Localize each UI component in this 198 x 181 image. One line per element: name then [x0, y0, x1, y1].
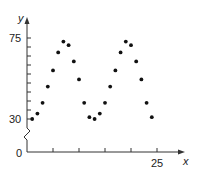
data-point — [67, 43, 71, 47]
data-point — [72, 60, 76, 64]
scatter-chart: y x 75 30 0 25 — [0, 0, 198, 181]
data-point — [134, 60, 138, 64]
data-point — [119, 51, 123, 55]
data-point — [140, 78, 144, 82]
data-point — [145, 101, 149, 105]
data-points — [30, 40, 153, 121]
data-point — [98, 112, 102, 116]
data-point — [103, 101, 107, 105]
data-point — [41, 101, 45, 105]
data-point — [56, 51, 60, 55]
origin-label: 0 — [16, 147, 22, 159]
y-tick-label-75: 75 — [9, 32, 21, 44]
data-point — [77, 78, 81, 82]
data-point — [62, 40, 66, 44]
x-tick-label-25: 25 — [151, 157, 163, 169]
y-ticks — [27, 38, 31, 119]
data-point — [30, 117, 34, 121]
data-point — [108, 85, 112, 89]
data-point — [93, 117, 97, 121]
axis-break-icon — [24, 128, 30, 140]
y-axis-label: y — [17, 12, 25, 24]
x-axis-arrow — [178, 150, 185, 155]
data-point — [88, 115, 92, 119]
data-point — [124, 40, 128, 44]
y-axis-arrow — [25, 17, 30, 24]
y-tick-label-30: 30 — [9, 113, 21, 125]
data-point — [150, 115, 154, 119]
data-point — [114, 69, 118, 73]
data-point — [46, 85, 50, 89]
x-ticks — [53, 148, 157, 152]
x-axis-label: x — [182, 155, 189, 167]
data-point — [82, 101, 86, 105]
data-point — [51, 69, 55, 73]
data-point — [129, 43, 133, 47]
data-point — [36, 112, 40, 116]
